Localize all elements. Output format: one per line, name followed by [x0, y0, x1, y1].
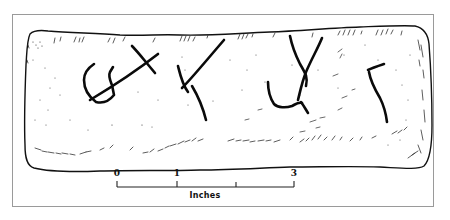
scale-label-3: 3 [291, 168, 297, 178]
glyph-1 [84, 46, 158, 103]
scale-label-1: 1 [174, 168, 180, 178]
tablet-drawing [0, 0, 450, 220]
glyph-2 [178, 40, 224, 120]
glyph-3 [268, 36, 322, 113]
tablet-outline [25, 26, 432, 172]
scale-label-0: 0 [114, 168, 120, 178]
scale-bar [117, 181, 294, 187]
glyph-4 [368, 64, 387, 122]
scale-units-label: Inches [189, 191, 220, 200]
